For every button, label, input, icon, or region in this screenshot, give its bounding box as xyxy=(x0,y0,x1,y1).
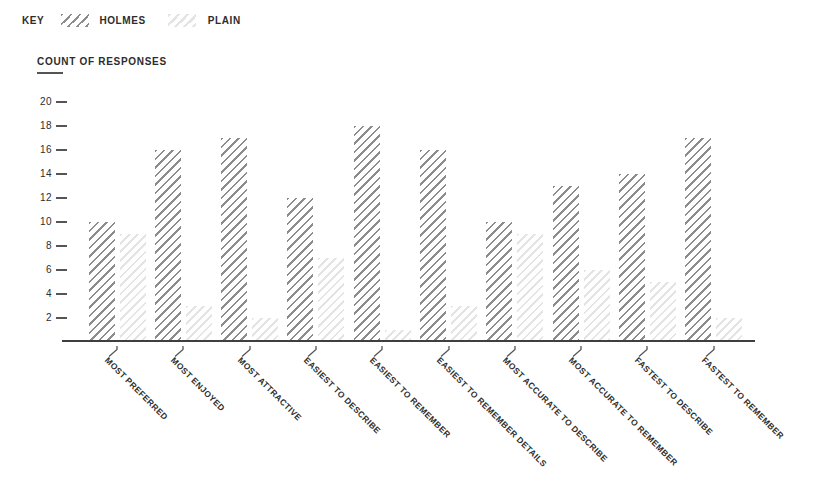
x-tick-connector xyxy=(307,343,317,355)
x-axis-label: EASIEST TO REMEMBER DETAILS xyxy=(434,355,548,469)
y-tick-dash xyxy=(56,293,67,295)
y-tick-dash xyxy=(56,269,67,271)
bar-holmes xyxy=(89,222,115,342)
bar-plain xyxy=(252,318,278,342)
y-tick-label: 8 xyxy=(18,240,52,251)
x-axis-label: MOST ACCURATE TO REMEMBER xyxy=(567,355,680,468)
bar-holmes xyxy=(685,138,711,342)
bar-holmes xyxy=(221,138,247,342)
y-tick-dash xyxy=(56,245,67,247)
bar-holmes xyxy=(486,222,512,342)
chart: KEY HOLMES PLAIN COUNT OF RESPONSES 2468… xyxy=(0,0,820,488)
bar-plain xyxy=(120,234,146,342)
y-tick-dash xyxy=(56,197,67,199)
bar-holmes xyxy=(619,174,645,342)
bar-holmes xyxy=(155,150,181,342)
y-tick-label: 4 xyxy=(18,288,52,299)
bar-plain xyxy=(186,306,212,342)
x-tick-connector xyxy=(241,343,251,355)
plain-hatch-swatch-icon xyxy=(168,14,196,27)
x-tick-connector xyxy=(174,343,184,355)
x-tick-connector xyxy=(705,343,715,355)
bar-holmes xyxy=(287,198,313,342)
x-axis-label: MOST ACCURATE TO DESCRIBE xyxy=(501,355,610,464)
bar-plain xyxy=(451,306,477,342)
bar-plain xyxy=(517,234,543,342)
x-axis-label: MOST PREFERRED xyxy=(103,355,170,422)
x-axis-label: MOST ATTRACTIVE xyxy=(236,355,304,423)
x-axis-line xyxy=(62,340,755,342)
chart-title: COUNT OF RESPONSES xyxy=(37,56,167,67)
y-tick-dash xyxy=(56,125,67,127)
x-axis-label: FASTEST TO DESCRIBE xyxy=(633,355,715,437)
y-tick-label: 2 xyxy=(18,312,52,323)
holmes-hatch-swatch-icon xyxy=(61,14,89,27)
y-tick-dash xyxy=(56,101,67,103)
y-tick-label: 16 xyxy=(18,144,52,155)
y-tick-dash xyxy=(56,317,67,319)
legend-item-plain: PLAIN xyxy=(208,15,241,26)
x-tick-connector xyxy=(572,343,582,355)
bar-plain xyxy=(318,258,344,342)
bar-holmes xyxy=(420,150,446,342)
bar-holmes xyxy=(354,126,380,342)
x-axis-label: MOST ENJOYED xyxy=(169,355,227,413)
bar-holmes xyxy=(553,186,579,342)
legend-title: KEY xyxy=(22,15,44,26)
y-tick-label: 12 xyxy=(18,192,52,203)
y-tick-dash xyxy=(56,221,67,223)
y-tick-label: 6 xyxy=(18,264,52,275)
legend: KEY HOLMES PLAIN xyxy=(22,14,241,27)
x-axis-label: EASIEST TO DESCRIBE xyxy=(302,355,383,436)
bar-plain xyxy=(650,282,676,342)
y-tick-label: 20 xyxy=(18,96,52,107)
y-tick-label: 18 xyxy=(18,120,52,131)
x-tick-connector xyxy=(373,343,383,355)
y-tick-label: 14 xyxy=(18,168,52,179)
y-tick-dash xyxy=(56,149,67,151)
x-tick-connector xyxy=(440,343,450,355)
legend-item-holmes: HOLMES xyxy=(99,15,145,26)
bar-plain xyxy=(716,318,742,342)
x-tick-connector xyxy=(638,343,648,355)
title-underline xyxy=(37,72,63,74)
y-tick-dash xyxy=(56,173,67,175)
x-tick-connector xyxy=(108,343,118,355)
y-tick-label: 10 xyxy=(18,216,52,227)
y-axis-title: COUNT OF RESPONSES xyxy=(37,56,167,74)
bar-plain xyxy=(584,270,610,342)
x-tick-connector xyxy=(506,343,516,355)
